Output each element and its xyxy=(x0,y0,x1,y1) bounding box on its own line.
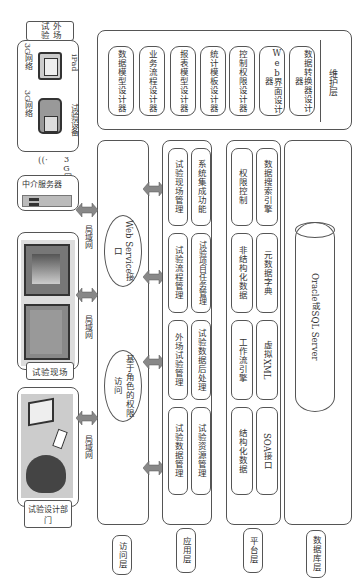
ipad-label: iPad xyxy=(70,54,79,71)
designer-data-model: 数据模型设计器 xyxy=(108,46,134,116)
crt-monitor-icon xyxy=(24,244,70,296)
designer-label: 数据转换器设计器 xyxy=(293,47,311,115)
test-site-title: 试验现场 xyxy=(26,362,74,380)
database-cylinder: Oracle或SQL Server xyxy=(295,222,335,412)
test-device-icon xyxy=(38,98,62,134)
platform-item-unstructured-data: 非结构化数据 xyxy=(231,233,253,313)
designer-label: 数据模型设计器 xyxy=(117,50,126,113)
designer-stat-template: 统计模板设计器 xyxy=(200,46,226,116)
designer-web-ui: Web界面设计器 xyxy=(259,46,285,116)
middle-server-title: 中介服务器 xyxy=(22,178,62,189)
app-item-data-mgmt: 试验数据管理 xyxy=(168,407,188,495)
maintenance-layer-label: 维护层 xyxy=(326,62,342,102)
designer-label: 控制权限设计器 xyxy=(238,50,247,113)
platform-item-virtual-xml: 虚拟XML xyxy=(256,320,278,400)
ipad-icon xyxy=(38,52,62,80)
designer-label: Web界面设计器 xyxy=(263,47,281,115)
lan-label-3: 局域网 xyxy=(82,435,93,459)
designer-business-flow: 业务流程设计器 xyxy=(139,46,165,116)
platform-layer-label: 平台层 xyxy=(243,528,263,573)
app-item-resource-mgmt: 试验资源管理 xyxy=(191,407,211,495)
lcd-monitor-icon xyxy=(24,304,70,360)
designer-label: 业务流程设计器 xyxy=(148,50,157,113)
platform-item-soa-interface: SOA接口 xyxy=(256,407,278,495)
platform-item-data-search-engine: 数据搜索引擎 xyxy=(256,148,278,226)
cube-icon xyxy=(28,398,54,427)
test-device-label: 试验设备 xyxy=(68,104,79,136)
design-dept-title: 试验设计部门 xyxy=(24,500,72,528)
app-item-data-postprocess: 试验数据后处理 xyxy=(191,320,211,400)
access-layer-box xyxy=(97,140,149,525)
network-label-3g-2: 3G网络 xyxy=(22,43,33,70)
platform-item-structured-data: 结构化数据 xyxy=(231,407,253,495)
designer-report-model: 报表模型设计器 xyxy=(170,46,196,116)
arrow-icon xyxy=(76,288,98,302)
database-layer-label: 数据库层 xyxy=(306,530,326,578)
rbac-ellipse: 基于角色的权限访问 xyxy=(104,350,142,422)
web-service-ellipse: Web Service接口 xyxy=(104,215,142,287)
field-test-title: 外场试验 xyxy=(26,21,74,41)
server-icon xyxy=(22,195,72,207)
designer-control-permission: 控制权限设计器 xyxy=(229,46,255,116)
platform-item-workflow-engine: 工作流引擎 xyxy=(231,320,253,400)
designer-label: 统计模板设计器 xyxy=(209,50,218,113)
app-item-system-integration: 系统集成功能 xyxy=(191,148,211,226)
maintenance-divider xyxy=(320,40,321,122)
arrow-icon xyxy=(76,203,98,217)
lan-label-1: 局域网 xyxy=(82,225,93,249)
lan-label-2: 局域网 xyxy=(82,315,93,339)
platform-item-metadata-dictionary: 元数据字典 xyxy=(256,233,278,313)
access-layer-label: 访问层 xyxy=(112,535,132,575)
network-label-3g-1: 3G网络 xyxy=(22,90,33,117)
user-icon xyxy=(26,455,66,493)
app-item-field-test-mgmt: 外场试验管理 xyxy=(168,320,188,400)
app-item-field-site-mgmt: 试验现场管理 xyxy=(168,148,188,226)
designer-label: 报表模型设计器 xyxy=(179,50,188,113)
platform-item-permission-control: 权限控制 xyxy=(231,148,253,226)
app-item-project-task-mgmt: 试验项目任务管理 xyxy=(191,233,211,313)
arrow-icon xyxy=(76,411,98,425)
app-item-process-mgmt: 试验流程管理 xyxy=(168,233,188,313)
application-layer-label: 应用层 xyxy=(176,528,196,573)
database-cylinder-top xyxy=(295,222,335,238)
signal-icon: ((· xyxy=(38,155,48,165)
designer-data-converter: 数据转换器设计器 xyxy=(289,46,315,116)
